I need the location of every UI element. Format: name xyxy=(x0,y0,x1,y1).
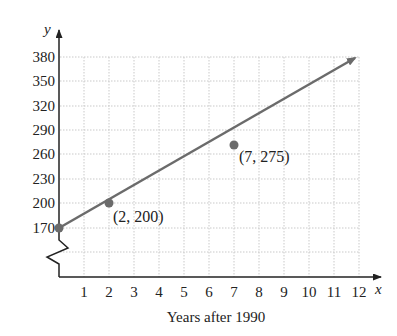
data-point-2 xyxy=(105,199,114,208)
x-tick: 12 xyxy=(352,284,367,300)
y-tick: 380 xyxy=(33,49,56,65)
x-tick: 3 xyxy=(130,284,138,300)
y-axis-var: y xyxy=(42,21,51,37)
x-tick: 7 xyxy=(230,284,238,300)
line-chart: (2, 200) (7, 275) y x 380 350 320 290 26… xyxy=(0,0,397,336)
y-tick: 350 xyxy=(33,73,56,89)
x-tick: 9 xyxy=(280,284,288,300)
x-tick-labels: 1 2 3 4 5 6 7 8 9 10 11 12 xyxy=(80,284,366,300)
x-tick: 1 xyxy=(80,284,88,300)
x-tick: 11 xyxy=(327,284,341,300)
y-tick: 200 xyxy=(33,195,56,211)
x-tick: 6 xyxy=(205,284,213,300)
grid xyxy=(60,57,359,277)
x-axis-var: x xyxy=(374,281,382,297)
y-tick: 260 xyxy=(33,146,56,162)
x-tick: 8 xyxy=(255,284,263,300)
x-axis-title: Years after 1990 xyxy=(167,309,265,325)
y-tick: 290 xyxy=(33,122,56,138)
x-tick: 2 xyxy=(105,284,113,300)
x-tick: 4 xyxy=(155,284,163,300)
point-label-7-275: (7, 275) xyxy=(239,148,290,166)
y-tick: 320 xyxy=(33,98,56,114)
data-point-0 xyxy=(55,224,64,233)
x-tick: 5 xyxy=(180,284,188,300)
y-tick-labels: 380 350 320 290 260 230 200 170 xyxy=(33,49,56,236)
x-tick: 10 xyxy=(302,284,317,300)
data-point-7 xyxy=(230,141,239,150)
y-tick: 230 xyxy=(33,171,56,187)
point-label-2-200: (2, 200) xyxy=(113,208,164,226)
y-tick: 170 xyxy=(33,220,56,236)
